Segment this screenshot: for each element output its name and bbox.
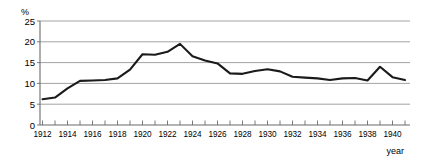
x-tick-label-1928: 1928 [233,130,252,139]
y-tick-label-20: 20 [24,36,35,47]
x-tick-label-1930: 1930 [258,130,277,139]
x-tick-label-1924: 1924 [183,130,202,139]
line-chart: % 25 20 15 10 5 0 [0,0,430,161]
x-axis-label: year [386,146,404,156]
x-tick-marks [43,121,406,126]
x-tick-label-1918: 1918 [108,130,127,139]
x-tick-label-1934: 1934 [308,130,327,139]
chart-container: % 25 20 15 10 5 0 [0,0,430,161]
data-series-line [43,44,406,99]
y-tick-label-5: 5 [30,99,35,110]
x-tick-label-1914: 1914 [58,130,77,139]
gridlines [40,21,410,104]
x-tick-label-1932: 1932 [283,130,302,139]
x-tick-label-1936: 1936 [333,130,352,139]
y-tick-label-25: 25 [24,16,35,27]
x-tick-labels: 1912 1914 1916 1918 1920 1922 1924 1926 … [33,130,402,139]
y-tick-label-0: 0 [30,120,35,131]
x-tick-label-1940: 1940 [383,130,402,139]
y-tick-label-10: 10 [24,78,35,89]
x-tick-label-1922: 1922 [158,130,177,139]
x-tick-label-1916: 1916 [83,130,102,139]
x-tick-label-1938: 1938 [358,130,377,139]
x-tick-label-1920: 1920 [133,130,152,139]
y-tick-labels: 25 20 15 10 5 0 [24,16,35,131]
y-tick-label-15: 15 [24,57,35,68]
x-tick-label-1926: 1926 [208,130,227,139]
x-tick-label-1912: 1912 [33,130,52,139]
